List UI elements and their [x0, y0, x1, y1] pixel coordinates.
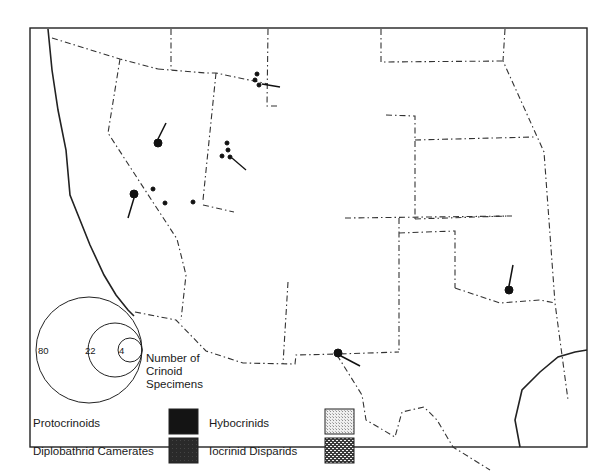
legend-label-protocrinoids: Protocrinoids	[33, 417, 100, 429]
legend-swatch-iocrinid	[325, 438, 354, 463]
legend-swatch-protocrinoids	[169, 409, 198, 434]
size-label-4: 4	[119, 345, 124, 356]
legend-swatch-hybocrinids	[325, 409, 354, 434]
legend-label-hybocrinids: Hybocrinids	[209, 417, 269, 429]
legend-label-diplobathrid: Diplobathrid Camerates	[33, 445, 154, 457]
map-frame	[30, 28, 587, 447]
locality-dot-texas	[334, 349, 342, 357]
crinoid-map: 80 22 4 Number of Crinoid Specimens Prot…	[0, 0, 609, 473]
locality-dot-nevada	[154, 139, 162, 147]
locality-dot-california	[130, 190, 138, 198]
legend-label-iocrinid: Iocrinid Disparids	[209, 445, 297, 457]
size-label-80: 80	[38, 345, 49, 356]
legend-swatch-diplobathrid	[169, 438, 198, 463]
size-label-22: 22	[85, 345, 96, 356]
locality-dot-oklahoma	[505, 286, 513, 294]
